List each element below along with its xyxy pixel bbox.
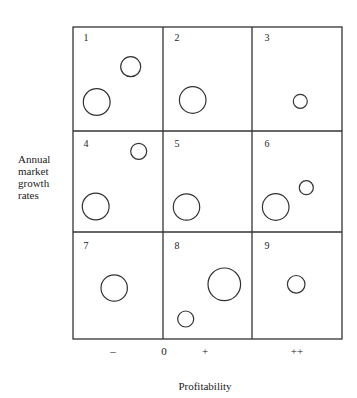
x-tick-label: – — [110, 345, 116, 357]
x-axis-title: Profitability — [178, 380, 231, 392]
bubble-cell-6 — [299, 181, 313, 195]
bubble-cell-5 — [173, 194, 199, 220]
y-axis-label-line: Annual — [18, 153, 50, 165]
cell-number-1: 1 — [84, 32, 89, 43]
y-axis-label: Annual market growth rates — [18, 153, 50, 201]
x-tick-label: + — [202, 345, 208, 357]
bubble-cell-3 — [293, 94, 307, 108]
x-tick-label: ++ — [291, 345, 303, 357]
bubble-cell-8 — [208, 268, 241, 301]
y-axis-label-line: rates — [18, 189, 50, 201]
cell-number-7: 7 — [84, 240, 89, 251]
matrix-canvas — [0, 0, 357, 398]
bubble-cell-6 — [262, 194, 289, 221]
y-axis-label-line: growth — [18, 177, 50, 189]
bubbles — [82, 57, 313, 327]
cell-number-5: 5 — [175, 138, 180, 149]
bubble-cell-8 — [178, 311, 194, 327]
bubble-cell-1 — [83, 89, 110, 116]
y-axis-label-line: market — [18, 165, 50, 177]
cell-number-6: 6 — [265, 138, 270, 149]
cell-number-8: 8 — [175, 240, 180, 251]
cell-number-2: 2 — [175, 32, 180, 43]
cell-number-4: 4 — [84, 138, 89, 149]
bubble-cell-9 — [287, 276, 305, 294]
bubble-cell-4 — [82, 193, 109, 220]
x-tick-label: 0 — [161, 345, 167, 357]
bubble-cell-2 — [179, 87, 206, 114]
bubble-cell-4 — [131, 143, 147, 159]
cell-number-9: 9 — [265, 240, 270, 251]
cell-number-3: 3 — [265, 32, 270, 43]
bubble-cell-1 — [121, 57, 141, 77]
bubble-cell-7 — [101, 275, 127, 301]
